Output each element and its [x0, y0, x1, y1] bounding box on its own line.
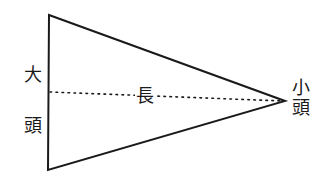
length-label: 長 [135, 87, 155, 105]
small-end-label-bottom: 頭 [292, 99, 310, 117]
large-end-label-top: 大 [24, 66, 42, 84]
triangle-outline [48, 15, 285, 170]
small-end-label-top: 小 [292, 79, 310, 97]
large-end-label-bottom: 頭 [24, 117, 42, 135]
taper-diagram [0, 0, 332, 190]
center-axis-dotted-line [50, 92, 283, 101]
